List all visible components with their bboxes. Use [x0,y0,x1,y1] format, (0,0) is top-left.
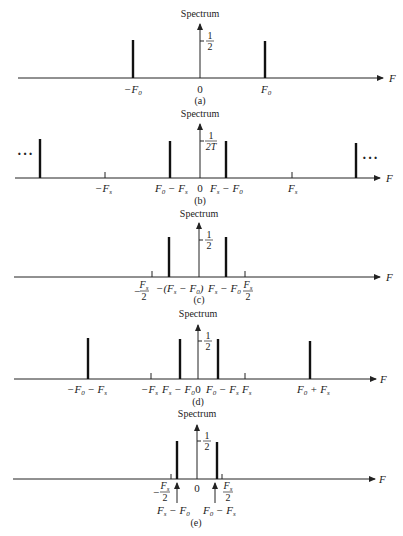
axis-label-f: F [385,172,393,184]
label-half-fs: Fs 2 [243,279,253,302]
label-neg-half-fs: − Fs 2 [134,279,149,302]
svg-text:2: 2 [226,492,231,503]
label-neg-f0: −F0 [124,83,142,97]
spectrum-title: Spectrum [179,308,218,319]
label-f0-plus-fs: F0 + Fs [296,383,330,397]
axis-label-f: F [379,373,387,385]
axis-label-f: F [378,473,386,485]
label-neg-fs: −Fs [95,182,112,196]
label-fs-minus-f0: Fs − F0 [156,504,190,518]
caption-a: (a) [194,95,205,107]
amplitude-den: 2T [206,141,218,152]
label-half-fs: Fs 2 [223,480,233,503]
label-neg-f0-minus-fs: −F0 − Fs [67,383,107,397]
amplitude-num: 1 [208,30,213,41]
caption-c: (c) [193,294,204,306]
ellipsis-right: ··· [362,151,379,166]
panel-a: Spectrum F 1 2 −F0 0 F0 (a) [18,8,396,107]
label-neg-fs: −Fs [141,383,158,397]
caption-b: (b) [194,195,206,207]
svg-text:2: 2 [246,291,251,302]
svg-text:2: 2 [142,291,147,302]
caption-d: (d) [192,396,204,408]
amplitude-den: 2 [205,441,210,452]
label-zero: 0 [197,182,203,194]
spectrum-title: Spectrum [178,408,217,419]
svg-text:−: − [153,486,159,498]
spectrum-title: Spectrum [180,208,219,219]
label-f0-minus-fs: F0 − Fs [202,504,236,518]
axis-label-f: F [388,72,396,84]
axis-label-f: F [385,271,393,283]
label-f0: F0 [260,83,272,97]
spectrum-figure: Spectrum F 1 2 −F0 0 F0 (a) Spectrum F 1… [0,0,403,536]
label-zero: 0 [197,83,203,95]
spectrum-title: Spectrum [181,108,220,119]
label-fs-minus-f0: Fs − F0 [161,383,195,397]
amplitude-den: 2 [206,341,211,352]
label-neg-half-fs: − Fs 2 [153,480,170,503]
label-pos-alias: Fs − F0 [207,282,241,296]
amplitude-den: 2 [208,41,213,52]
amplitude-num: 1 [209,130,214,141]
amplitude-num: 1 [207,229,212,240]
amplitude-num: 1 [205,430,210,441]
spectrum-title: Spectrum [181,8,220,19]
label-fs: Fs [287,182,298,196]
label-f0-minus-fs: F0 − Fs [154,182,188,196]
amplitude-den: 2 [207,240,212,251]
panel-e: Spectrum F 1 2 − Fs 2 0 Fs 2 Fs − F0 F0 … [13,408,386,529]
label-f0-minus-fs: F0 − Fs [205,383,239,397]
panel-c: Spectrum F 1 2 − Fs 2 −(Fs − F0) Fs − F0… [14,208,393,306]
caption-e: (e) [190,517,201,529]
label-zero: 0 [195,383,201,395]
svg-text:2: 2 [163,492,168,503]
label-fs-minus-f0: Fs − F0 [209,182,243,196]
panel-d: Spectrum F 1 2 −F0 − Fs −Fs Fs − F0 0 F0… [14,308,387,408]
label-fs: Fs [241,383,252,397]
panel-b: Spectrum F 1 2T ··· ··· −Fs F0 − Fs 0 Fs… [15,108,393,207]
amplitude-num: 1 [206,330,211,341]
label-zero: 0 [194,482,200,494]
ellipsis-left: ··· [17,147,34,162]
